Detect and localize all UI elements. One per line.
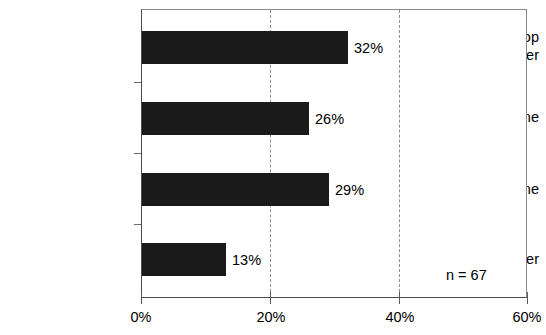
x-axis-label-40: 40% [385, 310, 414, 325]
bar-value-other: 13% [232, 253, 261, 268]
x-axis-tick-60 [527, 292, 528, 304]
bar-value-cell-phone: 26% [315, 112, 344, 127]
sample-size-annotation: n = 67 [446, 268, 487, 283]
bar-value-extra-telephone-line: 29% [335, 183, 364, 198]
x-axis-tick-40 [399, 292, 400, 304]
bar-extra-telephone-line [142, 173, 329, 206]
x-axis-label-60: 60% [512, 310, 541, 325]
bar-chart: Home/laptop computer Cell phone Extra te… [0, 0, 546, 335]
plot-area: 32% 26% 29% 13% n = 67 [141, 9, 527, 298]
gridline-40-percent [399, 10, 400, 297]
bar-cell-phone [142, 102, 309, 135]
bar-value-home-laptop-computer: 32% [354, 41, 383, 56]
bar-home-laptop-computer [142, 31, 348, 64]
x-axis-tick-0 [141, 292, 142, 304]
bar-other [142, 243, 226, 276]
x-axis-tick-20 [270, 292, 271, 304]
x-axis-label-20: 20% [256, 310, 285, 325]
x-axis-label-0: 0% [131, 310, 152, 325]
